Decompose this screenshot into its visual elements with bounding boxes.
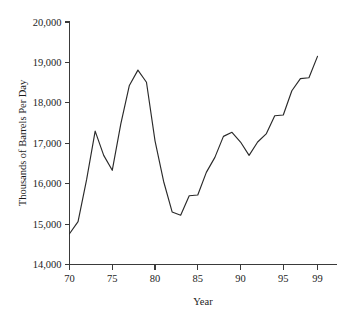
x-axis-tick-marks — [70, 265, 318, 270]
x-axis-tick-labels: 70758085909599 — [64, 273, 323, 284]
x-tick-label: 75 — [107, 273, 118, 284]
y-tick-label: 15,000 — [33, 219, 62, 230]
y-tick-label: 20,000 — [33, 17, 62, 28]
y-tick-label: 18,000 — [33, 97, 62, 108]
y-tick-label: 17,000 — [33, 138, 62, 149]
y-axis-tick-marks — [65, 22, 70, 265]
data-series-line — [70, 56, 318, 233]
y-axis-title: Thousands of Barrels Per Day — [17, 79, 28, 206]
x-tick-label: 90 — [235, 273, 246, 284]
y-tick-label: 14,000 — [33, 259, 62, 270]
x-tick-label: 85 — [193, 273, 204, 284]
y-axis-tick-labels: 14,00015,00016,00017,00018,00019,00020,0… — [33, 17, 62, 271]
x-axis-title: Year — [193, 296, 213, 307]
x-tick-label: 70 — [64, 273, 75, 284]
x-tick-label: 99 — [312, 273, 323, 284]
chart-canvas: 14,00015,00016,00017,00018,00019,00020,0… — [0, 0, 347, 321]
x-tick-label: 95 — [278, 273, 289, 284]
line-chart: 14,00015,00016,00017,00018,00019,00020,0… — [0, 0, 347, 321]
x-tick-label: 80 — [150, 273, 161, 284]
y-tick-label: 19,000 — [33, 57, 62, 68]
y-tick-label: 16,000 — [33, 178, 62, 189]
